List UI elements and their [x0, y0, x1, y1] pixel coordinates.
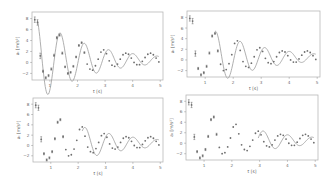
y-tick-label: 2	[181, 47, 184, 52]
data-point	[265, 57, 267, 59]
y-axis-label: aₜ [m/s²]	[170, 34, 175, 53]
data-point	[307, 135, 309, 137]
data-point	[309, 52, 311, 54]
data-point	[277, 135, 279, 137]
data-point	[211, 35, 213, 37]
data-point	[307, 50, 309, 52]
data-point	[95, 148, 97, 150]
data-point	[48, 75, 50, 77]
data-point	[257, 130, 259, 132]
data-point	[235, 123, 237, 125]
data-point	[81, 126, 83, 128]
data-point	[213, 116, 215, 118]
data-point	[130, 57, 132, 59]
data-point	[202, 155, 204, 157]
data-point	[95, 65, 97, 67]
data-point	[57, 121, 59, 123]
y-axis-label: aₜ [m/s²]	[16, 120, 21, 139]
data-point	[139, 147, 141, 149]
data-point	[90, 151, 92, 153]
data-point	[281, 50, 283, 52]
x-tick-label: 2	[76, 83, 79, 88]
data-point	[268, 146, 270, 148]
data-point	[68, 155, 70, 157]
data-point	[209, 52, 211, 54]
data-point	[274, 139, 276, 141]
data-point	[305, 133, 307, 135]
data-point	[150, 52, 152, 54]
data-point	[46, 159, 48, 161]
x-axis-label: t [s]	[248, 169, 257, 174]
data-point	[153, 137, 155, 139]
y-tick-label: 0	[180, 141, 183, 146]
data-point	[117, 63, 119, 65]
data-point	[188, 101, 190, 103]
data-point	[70, 154, 72, 156]
y-tick-label: 4	[180, 120, 183, 125]
data-point	[62, 136, 64, 138]
data-point	[125, 52, 127, 54]
data-point	[221, 153, 223, 155]
data-point	[246, 150, 248, 152]
data-point	[242, 61, 244, 63]
data-point	[189, 18, 191, 20]
data-point	[106, 136, 108, 138]
data-point	[79, 129, 81, 131]
y-tick-label: 8	[181, 15, 184, 20]
data-point	[238, 133, 240, 135]
x-axis-label: t [s]	[249, 86, 258, 91]
data-point	[37, 22, 39, 24]
data-point	[284, 51, 286, 53]
data-point	[136, 147, 138, 149]
data-point	[38, 107, 40, 109]
y-tick-label: −2	[176, 151, 183, 156]
data-point	[310, 138, 312, 140]
data-point	[139, 64, 141, 66]
data-point	[296, 141, 298, 143]
data-point	[299, 138, 301, 140]
x-tick-label: 2	[77, 165, 80, 170]
data-point	[155, 140, 157, 142]
x-tick-label: 5	[159, 83, 162, 88]
x-tick-label: 2	[232, 80, 235, 85]
data-point	[232, 126, 234, 128]
data-point	[248, 67, 250, 69]
data-point	[210, 119, 212, 121]
y-tick-label: 2	[26, 49, 29, 54]
data-point	[75, 56, 77, 58]
data-point	[288, 142, 290, 144]
data-point	[220, 63, 222, 65]
y-axis-label: aₜ [m/s²]	[15, 36, 20, 55]
data-point	[89, 68, 91, 70]
data-point	[64, 66, 66, 68]
data-point	[84, 135, 86, 137]
data-point	[70, 71, 72, 73]
data-point	[251, 62, 253, 64]
x-tick-label: 4	[286, 163, 289, 168]
data-point	[253, 56, 255, 58]
x-tick-label: 4	[288, 80, 291, 85]
data-point	[192, 20, 194, 22]
data-point	[141, 60, 143, 62]
data-point	[45, 77, 47, 79]
panel-top-left: 12345−202468t [s]aₜ [m/s²]	[15, 12, 163, 94]
data-point	[298, 58, 300, 60]
data-point	[267, 62, 269, 64]
data-point	[106, 53, 108, 55]
y-tick-label: 6	[27, 112, 30, 117]
x-tick-label: 3	[260, 80, 263, 85]
data-point	[98, 141, 100, 143]
y-tick-label: 6	[180, 109, 183, 114]
data-point	[291, 144, 293, 146]
data-point	[256, 49, 258, 51]
data-point	[133, 145, 135, 147]
data-point	[228, 63, 230, 65]
y-tick-label: −2	[177, 68, 184, 73]
data-point	[313, 142, 315, 144]
data-point	[231, 54, 233, 56]
data-point	[49, 157, 51, 159]
data-point	[197, 68, 199, 70]
x-tick-label: 1	[204, 80, 207, 85]
data-point	[101, 135, 103, 137]
data-point	[302, 134, 304, 136]
